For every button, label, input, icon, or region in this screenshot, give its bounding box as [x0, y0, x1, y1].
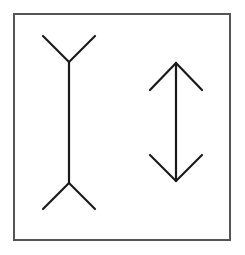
fins-out-line [43, 36, 95, 209]
fin-line [69, 183, 95, 209]
fin-line [150, 155, 176, 181]
fin-line [43, 36, 69, 62]
illusion-diagram [0, 0, 245, 255]
fin-line [43, 183, 69, 209]
arrowheads-in-line [150, 63, 202, 181]
fin-line [69, 36, 95, 62]
figures-group [43, 36, 202, 209]
fin-line [176, 155, 202, 181]
fin-line [176, 63, 202, 90]
fin-line [150, 63, 176, 90]
